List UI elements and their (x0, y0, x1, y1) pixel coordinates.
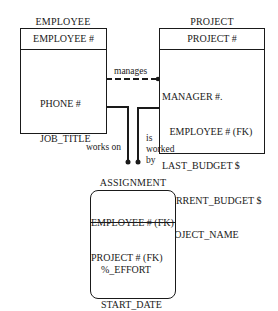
is-worked-by-line-3: by (146, 155, 175, 166)
assignment-attr-effort: %_EFFORT (101, 264, 162, 276)
project-entity[interactable]: PROJECT # MANAGER #. EMPLOYEE # (FK) LAS… (159, 28, 265, 154)
employee-key: EMPLOYEE # (21, 29, 106, 50)
project-attr-manager: MANAGER #. (162, 91, 262, 103)
manages-label: manages (114, 66, 147, 77)
assignment-entity[interactable]: EMPLOYEE # (FK) PROJECT # (FK) %_EFFORT … (90, 190, 176, 299)
project-entity-title: PROJECT (159, 16, 265, 27)
is-worked-by-line-2: worked (146, 144, 175, 155)
project-key: PROJECT # (160, 29, 264, 50)
employee-entity-title: EMPLOYEE (20, 16, 106, 27)
project-attr-manager-fk: EMPLOYEE # (FK) (162, 126, 262, 138)
assignment-attr-start-date: START_DATE (101, 299, 162, 311)
works-on-line (106, 107, 128, 162)
project-attr-current-budget: CURRENT_BUDGET $ (162, 195, 262, 207)
employee-entity[interactable]: EMPLOYEE # PHONE # JOB_TITLE (20, 28, 107, 134)
assignment-entity-title: ASSIGNMENT (90, 177, 176, 188)
assignment-key-employee: EMPLOYEE # (FK) (91, 217, 175, 229)
is-worked-by-line-1: is (146, 133, 175, 144)
works-on-label: works on (86, 142, 121, 153)
employee-attr-job-title: JOB_TITLE (40, 133, 91, 145)
worked-by-dot (136, 160, 141, 165)
works-on-dot (126, 160, 131, 165)
assignment-keys: EMPLOYEE # (FK) PROJECT # (FK) (91, 191, 175, 223)
project-attributes: MANAGER #. EMPLOYEE # (FK) LAST_BUDGET $… (162, 68, 262, 264)
assignment-attributes: %_EFFORT START_DATE (101, 241, 162, 311)
employee-attributes: PHONE # JOB_TITLE (40, 75, 91, 167)
project-attr-last-budget: LAST_BUDGET $ (162, 160, 262, 172)
project-attr-name: PROJECT_NAME (162, 229, 262, 241)
is-worked-by-label: is worked by (146, 133, 175, 166)
employee-attr-phone: PHONE # (40, 98, 91, 110)
